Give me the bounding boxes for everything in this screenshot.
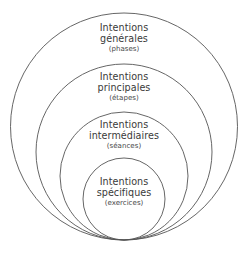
label-intentions-specifiques: Intentions spécifiques (exercices) (59, 177, 189, 207)
label-title-intermediaires: Intentions intermédiaires (59, 120, 189, 141)
label-subtitle-intermediaires: (séances) (59, 142, 189, 150)
label-title-specifiques: Intentions spécifiques (59, 177, 189, 198)
label-title-generales: Intentions générales (59, 23, 189, 44)
label-intentions-intermediaires: Intentions intermédiaires (séances) (59, 120, 189, 150)
venn-diagram: Intentions générales (phases) Intentions… (0, 0, 249, 265)
label-intentions-principales: Intentions principales (étapes) (59, 72, 189, 102)
label-subtitle-specifiques: (exercices) (59, 199, 189, 207)
label-subtitle-principales: (étapes) (59, 94, 189, 102)
label-subtitle-generales: (phases) (59, 45, 189, 53)
label-title-principales: Intentions principales (59, 72, 189, 93)
label-intentions-generales: Intentions générales (phases) (59, 23, 189, 53)
